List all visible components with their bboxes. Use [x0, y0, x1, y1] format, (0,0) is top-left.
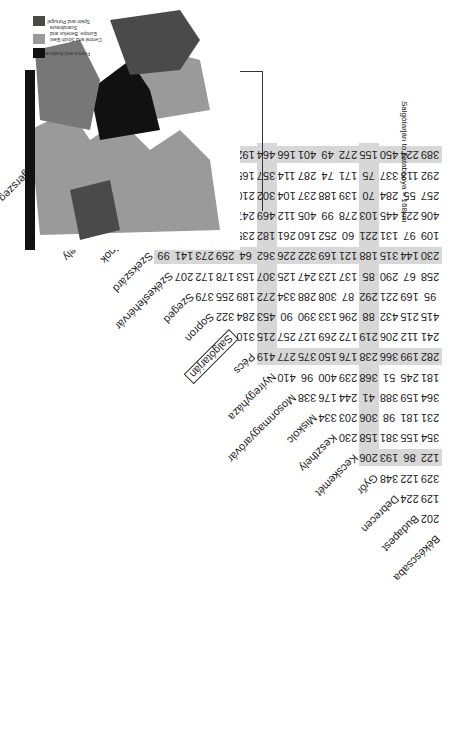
distance-cell: 348 [379, 473, 399, 485]
distance-cell: 202 [420, 513, 440, 525]
distance-cell: 70 [359, 190, 379, 202]
distance-cell: 96 [297, 372, 317, 384]
distance-cell: 379 [195, 291, 215, 303]
distance-cell: 322 [297, 250, 317, 262]
distance-cell: 366 [379, 351, 399, 363]
distance-cell: 362 [256, 250, 276, 262]
distance-cell: 49 [318, 149, 338, 161]
distance-note: Salgótarján to Tatabánya = 168km [400, 101, 409, 223]
distance-cell: 85 [359, 271, 379, 283]
distance-cell: 112 [277, 210, 297, 222]
distance-cell: 155 [359, 149, 379, 161]
distance-cell: 287 [297, 170, 317, 182]
distance-cell: 277 [277, 351, 297, 363]
distance-cell: 278 [338, 210, 358, 222]
distance-cell: 237 [297, 190, 317, 202]
distance-cell: 86 [400, 452, 420, 464]
distance-cell: 155 [400, 432, 420, 444]
distance-cell: 464 [256, 149, 276, 161]
distance-cell: 406 [420, 210, 440, 222]
column-header: Győr [356, 472, 381, 497]
distance-cell: 410 [277, 372, 297, 384]
distance-cell: 245 [400, 372, 420, 384]
distance-cell: 123 [318, 271, 338, 283]
distance-cell: 364 [420, 392, 440, 404]
distance-cell: 390 [297, 311, 317, 323]
distance-cell: 99 [154, 250, 174, 262]
distance-cell: 368 [359, 372, 379, 384]
distance-cell: 199 [400, 351, 420, 363]
distance-cell: 292 [359, 291, 379, 303]
distance-cell: 357 [256, 170, 276, 182]
distance-cell: 166 [277, 149, 297, 161]
column-header: Budapest [381, 513, 422, 554]
distance-cell: 189 [236, 291, 256, 303]
distance-cell: 188 [359, 250, 379, 262]
column-header: Szeged [162, 291, 197, 326]
distance-cell: 206 [359, 452, 379, 464]
distance-cell: 176 [318, 392, 338, 404]
distance-cell: 334 [318, 412, 338, 424]
distance-cell: 114 [277, 170, 297, 182]
distance-cell: 239 [338, 372, 358, 384]
distance-cell: 153 [236, 271, 256, 283]
distance-cell: 74 [318, 170, 338, 182]
distance-cell: 257 [420, 190, 440, 202]
distance-cell: 415 [420, 311, 440, 323]
distance-cell: 181 [420, 372, 440, 384]
legend-label-france: France and Andorra [46, 51, 90, 57]
distance-cell: 182 [256, 230, 276, 242]
distance-cell: 272 [256, 291, 276, 303]
distance-cell: 302 [256, 190, 276, 202]
distance-cell: 158 [359, 432, 379, 444]
column-header: Sopron [183, 311, 217, 345]
distance-cell: 188 [318, 190, 338, 202]
distance-cell: 41 [359, 392, 379, 404]
distance-cell: 171 [338, 170, 358, 182]
distance-cell: 60 [338, 230, 358, 242]
distance-cell: 230 [420, 250, 440, 262]
distance-cell: 445 [379, 210, 399, 222]
distance-cell: 215 [400, 311, 420, 323]
column-header: Keszthely [298, 432, 340, 474]
legend-swatch-central [33, 34, 45, 44]
distance-cell: 122 [420, 452, 440, 464]
distance-cell: 273 [195, 250, 215, 262]
distance-cell: 338 [297, 392, 317, 404]
distance-cell: 322 [215, 311, 235, 323]
distance-cell: 469 [256, 210, 276, 222]
europe-map: France and Andorra Central and South Eas… [25, 0, 240, 250]
distance-cell: 137 [338, 271, 358, 283]
distance-cell: 221 [379, 291, 399, 303]
distance-cell: 241 [420, 331, 440, 343]
distance-cell: 375 [297, 351, 317, 363]
distance-cell: 141 [174, 250, 194, 262]
distance-cell: 181 [400, 412, 420, 424]
distance-cell: 144 [400, 250, 420, 262]
distance-cell: 389 [420, 149, 440, 161]
distance-cell: 129 [420, 493, 440, 505]
distance-cell: 122 [400, 473, 420, 485]
map-edge-bar [25, 70, 35, 250]
distance-cell: 103 [359, 210, 379, 222]
distance-cell: 255 [215, 291, 235, 303]
distance-cell: 64 [236, 250, 256, 262]
distance-cell: 259 [215, 250, 235, 262]
distance-cell: 450 [379, 149, 399, 161]
distance-cell: 169 [318, 250, 338, 262]
distance-cell: 354 [420, 432, 440, 444]
distance-cell: 284 [379, 190, 399, 202]
distance-cell: 257 [277, 331, 297, 343]
legend-swatch-france [33, 48, 45, 58]
distance-cell: 178 [215, 271, 235, 283]
distance-cell: 400 [318, 372, 338, 384]
distance-cell: 226 [277, 250, 297, 262]
distance-cell: 284 [236, 311, 256, 323]
legend-swatch-spain [33, 16, 45, 26]
distance-cell: 139 [338, 190, 358, 202]
distance-cell: 307 [256, 271, 276, 283]
distance-cell: 99 [318, 210, 338, 222]
distance-cell: 238 [359, 351, 379, 363]
distance-cell: 127 [297, 331, 317, 343]
distance-cell: 51 [379, 372, 399, 384]
